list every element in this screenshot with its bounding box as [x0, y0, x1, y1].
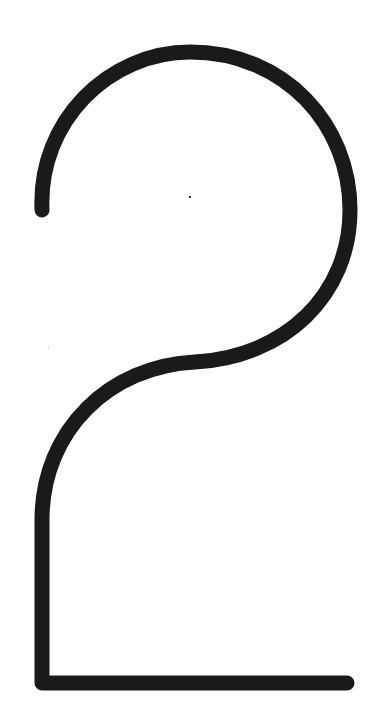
speck-dot-2	[48, 347, 49, 348]
numeral-two-canvas	[0, 0, 382, 725]
speck-dot	[189, 196, 191, 198]
numeral-two-figure	[0, 0, 382, 725]
numeral-two-upper-arc	[42, 52, 350, 683]
